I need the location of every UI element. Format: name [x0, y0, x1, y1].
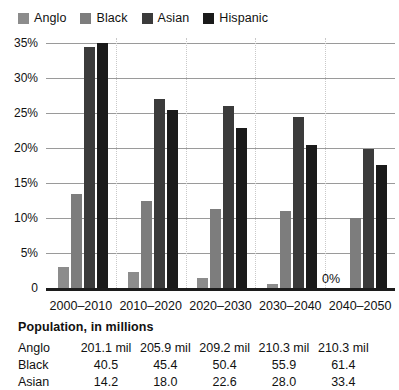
legend-item-label: Black: [96, 12, 127, 24]
bar-group: [46, 43, 116, 288]
population-table-title: Population, in millions: [18, 320, 390, 334]
bar-anglo[interactable]: [58, 267, 69, 288]
bar-hispanic[interactable]: [376, 165, 387, 288]
bar-hispanic[interactable]: [236, 128, 247, 288]
x-axis-label: 2030–2040: [255, 299, 325, 313]
bar-group: [255, 43, 325, 288]
table-row-label: Asian: [18, 375, 76, 390]
table-cell: 201.1 mil: [76, 341, 135, 358]
bar-asian[interactable]: [84, 47, 95, 289]
population-table-section: Population, in millions Anglo201.1 mil20…: [18, 320, 390, 390]
table-cell: 210.3 mil: [254, 341, 313, 358]
x-axis-labels: 2000–20102010–20202020–20302030–20402040…: [46, 299, 395, 315]
bar-group: [186, 43, 256, 288]
x-axis-label: 2010–2020: [116, 299, 186, 313]
bar-hispanic[interactable]: [167, 110, 178, 288]
bar-black[interactable]: [210, 209, 221, 288]
table-cell: 61.4: [314, 358, 373, 375]
bar-asian[interactable]: [293, 117, 304, 288]
table-row-label: Anglo: [18, 341, 76, 358]
y-axis-tick-label: 5%: [0, 248, 38, 258]
bar-asian[interactable]: [223, 106, 234, 288]
x-axis-baseline: [46, 288, 395, 291]
x-axis-label: 2040–2050: [325, 299, 395, 313]
table-cell: 205.9 mil: [136, 341, 195, 358]
bar-hispanic[interactable]: [97, 43, 108, 288]
table-cell: 40.5: [76, 358, 135, 375]
legend-swatch-icon: [203, 13, 214, 24]
table-cell: 50.4: [195, 358, 254, 375]
legend-item-hispanic: Hispanic: [203, 12, 268, 24]
table-cell: 33.4: [314, 375, 373, 390]
x-axis-label: 2000–2010: [46, 299, 116, 313]
chart-legend: AngloBlackAsianHispanic: [18, 9, 282, 27]
y-axis-tick-label: 0: [0, 283, 38, 293]
bar-anglo[interactable]: [267, 284, 278, 288]
legend-item-asian: Asian: [142, 12, 190, 24]
bar-black[interactable]: [141, 201, 152, 288]
table-cell: 55.9: [254, 358, 313, 375]
bar-black[interactable]: [71, 194, 82, 289]
table-cell: 45.4: [136, 358, 195, 375]
y-axis-tick-label: 10%: [0, 213, 38, 223]
table-cell: 28.0: [254, 375, 313, 390]
bar-anglo[interactable]: [128, 272, 139, 288]
bar-group: [325, 43, 395, 288]
y-axis-tick-label: 30%: [0, 73, 38, 83]
legend-item-label: Anglo: [34, 12, 66, 24]
table-cell: 22.6: [195, 375, 254, 390]
y-axis-tick-label: 15%: [0, 178, 38, 188]
population-table: Anglo201.1 mil205.9 mil209.2 mil210.3 mi…: [18, 341, 373, 390]
table-cell: 14.2: [76, 375, 135, 390]
bar-asian[interactable]: [363, 149, 374, 288]
y-axis-tick-label: 35%: [0, 38, 38, 48]
bar-asian[interactable]: [154, 99, 165, 288]
y-axis-tick-label: 20%: [0, 143, 38, 153]
legend-item-anglo: Anglo: [18, 12, 66, 24]
bar-black[interactable]: [280, 211, 291, 288]
zero-value-annotation: 0%: [322, 272, 340, 286]
table-row: Black40.545.450.455.961.4: [18, 358, 373, 375]
legend-item-label: Hispanic: [219, 12, 268, 24]
table-row: Asian14.218.022.628.033.4: [18, 375, 373, 390]
legend-swatch-icon: [142, 13, 153, 24]
table-row-label: Black: [18, 358, 76, 375]
legend-item-black: Black: [80, 12, 127, 24]
table-cell: 18.0: [136, 375, 195, 390]
bar-hispanic[interactable]: [306, 145, 317, 288]
x-axis-label: 2020–2030: [186, 299, 256, 313]
bar-anglo[interactable]: [197, 278, 208, 289]
bar-group: [116, 43, 186, 288]
legend-item-label: Asian: [158, 12, 190, 24]
table-cell: 209.2 mil: [195, 341, 254, 358]
y-axis-tick-label: 25%: [0, 108, 38, 118]
legend-swatch-icon: [80, 13, 91, 24]
table-row: Anglo201.1 mil205.9 mil209.2 mil210.3 mi…: [18, 341, 373, 358]
bar-black[interactable]: [350, 218, 361, 288]
table-cell: 210.3 mil: [314, 341, 373, 358]
legend-swatch-icon: [18, 13, 29, 24]
chart-plot-area: 05%10%15%20%25%30%35%0%: [46, 43, 395, 288]
